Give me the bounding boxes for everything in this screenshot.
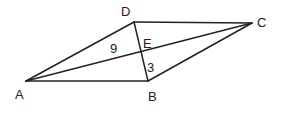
diagonal-bd bbox=[134, 22, 148, 81]
measure-ae: 9 bbox=[110, 41, 117, 56]
quadrilateral-diagram: A B C D E 9 3 bbox=[0, 0, 281, 114]
vertex-label-b: B bbox=[148, 89, 157, 104]
diagonal-ac bbox=[26, 23, 252, 81]
segment-bc bbox=[148, 23, 252, 81]
vertex-label-e: E bbox=[143, 36, 152, 51]
vertex-label-a: A bbox=[15, 87, 24, 102]
vertex-label-d: D bbox=[121, 4, 130, 19]
measure-eb: 3 bbox=[147, 60, 154, 75]
vertex-label-c: C bbox=[257, 15, 266, 30]
segment-da bbox=[26, 22, 134, 81]
segment-cd bbox=[134, 22, 252, 23]
